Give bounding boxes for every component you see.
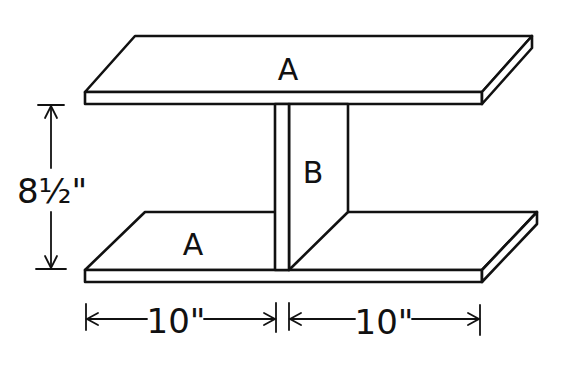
left-width-dimension: 10"	[86, 301, 276, 341]
top-board: A	[85, 36, 532, 104]
shelf-diagram: A A B 8½" 10" 1	[0, 0, 561, 370]
bottom-board-label: A	[183, 227, 204, 262]
divider-label: B	[303, 155, 324, 190]
left-width-label: 10"	[147, 301, 206, 341]
right-width-label: 10"	[355, 302, 414, 342]
top-board-label: A	[278, 52, 299, 87]
right-width-dimension: 10"	[289, 302, 480, 342]
top-board-front-edge	[85, 92, 482, 104]
bottom-board-front-edge	[85, 270, 482, 282]
height-dimension: 8½"	[17, 105, 87, 269]
top-board-top-face	[85, 36, 532, 92]
divider-front-edge	[275, 104, 289, 270]
height-label: 8½"	[17, 171, 87, 211]
